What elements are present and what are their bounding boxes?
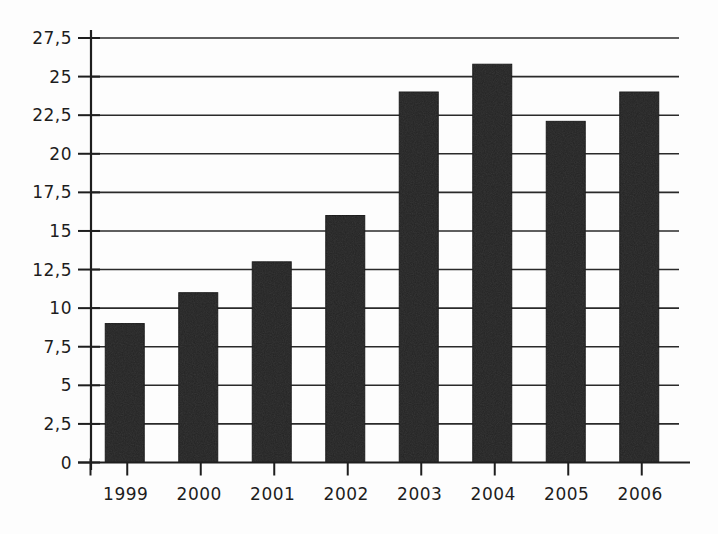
x-tick-label-2001: 2001 [250,484,295,504]
y-tick-label: 25 [49,67,72,87]
y-tick-label: 2,5 [43,414,72,434]
y-tick-label: 10 [49,298,72,318]
bar-texture [473,64,512,462]
x-tick-label-1999: 1999 [103,484,148,504]
x-tick-group: 19992000200120022003200420052006 [91,459,663,504]
bar-texture [105,324,144,463]
y-tick-label: 7,5 [43,337,72,357]
y-tick-group: 02,557,51012,51517,52022,52527,5 [32,28,100,473]
bar-texture [546,121,585,462]
x-tick-label-2006: 2006 [618,484,663,504]
x-tick-label-2003: 2003 [397,484,442,504]
chart-canvas: 02,557,51012,51517,52022,52527,5 1999200… [0,0,718,534]
x-tick-label-2004: 2004 [471,484,516,504]
y-tick-label: 17,5 [32,182,72,202]
x-tick-label-2005: 2005 [544,484,589,504]
y-tick-label: 0 [61,453,72,473]
bar-texture [179,293,218,463]
y-tick-label: 22,5 [32,105,72,125]
y-tick-label: 5 [61,375,72,395]
bar-texture [326,216,365,463]
bar-texture [620,92,659,462]
y-tick-label: 27,5 [32,28,72,48]
x-tick-label-2002: 2002 [324,484,369,504]
bars-group [105,64,658,462]
y-tick-label: 12,5 [32,260,72,280]
y-tick-label: 20 [49,144,72,164]
bar-chart: 02,557,51012,51517,52022,52527,5 1999200… [0,0,718,534]
bar-texture [399,92,438,462]
axes-group [78,30,690,470]
x-tick-label-2000: 2000 [177,484,222,504]
bar-texture [252,262,291,463]
y-tick-label: 15 [49,221,72,241]
